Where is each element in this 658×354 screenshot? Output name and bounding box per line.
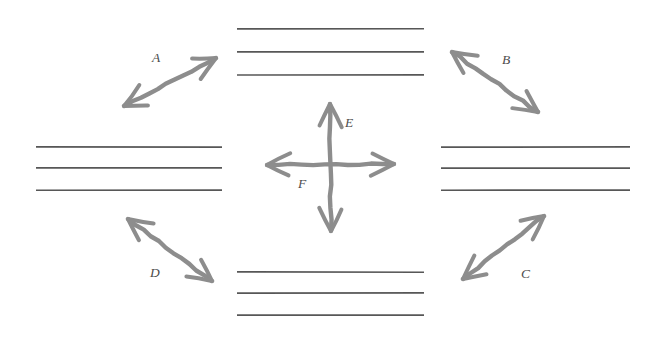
arrow-shaft bbox=[267, 164, 394, 166]
arrow-e: E bbox=[319, 104, 354, 231]
line-group-top bbox=[237, 29, 424, 75]
line-group-bottom bbox=[237, 272, 424, 315]
arrow-b: B bbox=[452, 52, 538, 112]
arrow-label-d: D bbox=[149, 265, 160, 280]
arrow-shaft bbox=[452, 52, 538, 112]
arrow-a: A bbox=[124, 50, 216, 106]
arrow-head-start bbox=[463, 256, 486, 279]
arrow-shaft bbox=[329, 104, 331, 231]
diagram-canvas: A B C D E bbox=[0, 0, 658, 354]
arrow-label-f: F bbox=[297, 176, 307, 191]
arrow-head-end bbox=[521, 216, 544, 239]
arrow-c: C bbox=[463, 216, 544, 281]
line-group-left bbox=[36, 147, 222, 190]
arrow-shaft bbox=[128, 219, 212, 281]
arrow-shaft bbox=[463, 216, 544, 279]
arrow-label-c: C bbox=[521, 266, 531, 281]
arrow-shaft bbox=[124, 58, 216, 106]
arrow-label-e: E bbox=[344, 115, 354, 130]
diagram-svg: A B C D E bbox=[0, 0, 658, 354]
arrow-d: D bbox=[128, 219, 212, 281]
arrow-label-a: A bbox=[151, 50, 161, 65]
line-group-right bbox=[441, 147, 630, 190]
arrow-label-b: B bbox=[502, 52, 510, 67]
